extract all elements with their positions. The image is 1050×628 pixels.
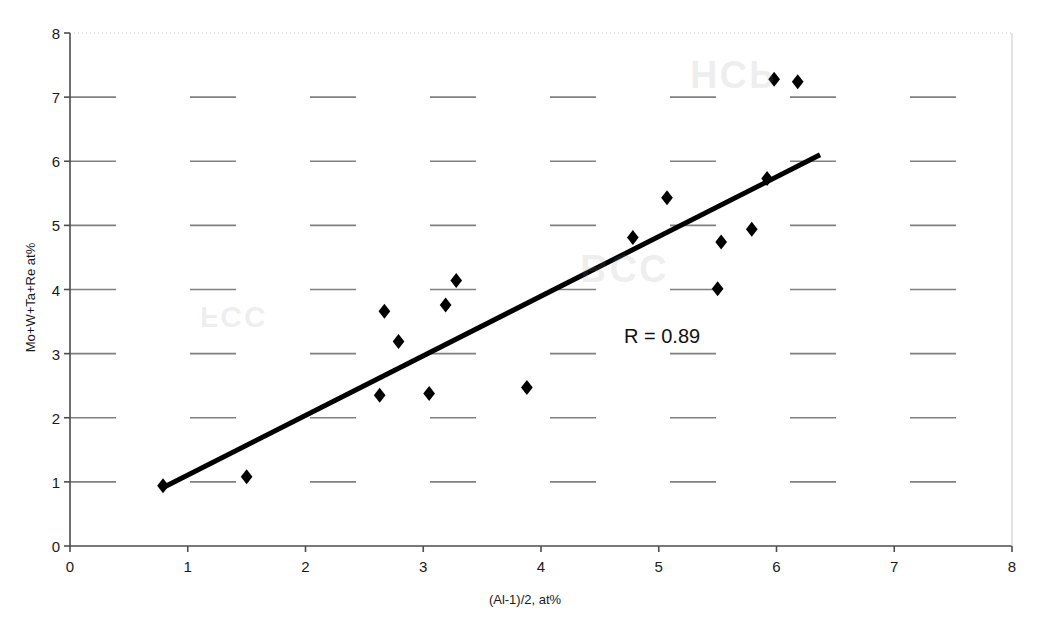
- y-tick-label-6: 6: [20, 153, 60, 170]
- scatter-chart-figure: 012345678012345678 Mo+W+Ta+Re at% (Al-1)…: [0, 0, 1050, 628]
- data-point: [157, 478, 169, 493]
- y-tick-label-0: 0: [20, 538, 60, 555]
- x-tick-label-4: 4: [537, 558, 545, 575]
- data-point: [715, 235, 727, 250]
- x-tick-label-7: 7: [890, 558, 898, 575]
- series-alloy-compositions: [157, 72, 803, 494]
- x-tick-label-2: 2: [301, 558, 309, 575]
- x-tick-label-1: 1: [184, 558, 192, 575]
- plot-canvas: [0, 0, 1050, 628]
- data-point: [521, 380, 533, 395]
- data-point: [746, 222, 758, 237]
- data-point: [379, 304, 391, 319]
- watermark-hcp: HCP: [690, 52, 776, 95]
- x-tick-label-0: 0: [66, 558, 74, 575]
- x-tick-label-3: 3: [419, 558, 427, 575]
- correlation-annotation: R = 0.89: [624, 325, 700, 348]
- data-point: [792, 74, 804, 89]
- y-tick-label-7: 7: [20, 89, 60, 106]
- data-point: [661, 190, 673, 205]
- data-point: [241, 469, 253, 484]
- watermark-bcc: BCC: [580, 246, 668, 289]
- x-tick-label-6: 6: [772, 558, 780, 575]
- x-tick-label-5: 5: [655, 558, 663, 575]
- y-tick-label-2: 2: [20, 409, 60, 426]
- data-point: [712, 281, 724, 296]
- data-point: [440, 297, 452, 312]
- x-tick-label-8: 8: [1008, 558, 1016, 575]
- y-tick-label-1: 1: [20, 473, 60, 490]
- data-point: [627, 230, 639, 245]
- y-axis-title: Mo+W+Ta+Re at%: [23, 198, 38, 398]
- x-axis-title: (Al-1)/2, at%: [0, 592, 1050, 607]
- watermark-fcc: FCC: [200, 300, 268, 334]
- data-point: [423, 386, 435, 401]
- y-tick-label-8: 8: [20, 25, 60, 42]
- data-point: [393, 334, 405, 349]
- data-point: [374, 388, 386, 403]
- data-point: [450, 273, 462, 288]
